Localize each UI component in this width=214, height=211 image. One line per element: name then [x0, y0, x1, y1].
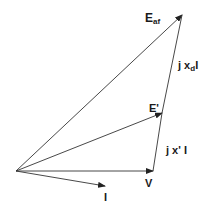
phasor-diagram	[0, 0, 214, 211]
label-e-prime: E'	[149, 103, 159, 114]
label-jxd-i: j xdI	[178, 60, 198, 73]
label-e-af-main: E	[145, 11, 153, 25]
vector-jx-prime-i	[153, 113, 162, 171]
label-e-af-subscript: af	[153, 17, 160, 26]
vectors-group	[16, 15, 182, 186]
label-i: I	[104, 192, 107, 203]
label-v: V	[145, 178, 152, 189]
label-jxd-suffix: I	[195, 59, 198, 71]
label-jxd-prefix: j x	[178, 59, 190, 71]
vector-e-prime	[16, 113, 162, 171]
vector-i	[16, 171, 105, 186]
label-e-af: Eaf	[145, 12, 160, 26]
label-jx-prime-i: j x' I	[166, 145, 187, 156]
vector-e-af	[16, 15, 182, 171]
